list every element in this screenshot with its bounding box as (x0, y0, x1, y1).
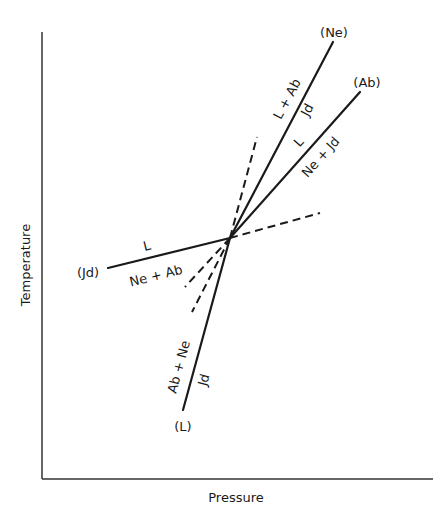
reaction-label-ne: (Ne) (320, 25, 348, 40)
y-axis-label: Temperature (18, 224, 33, 307)
assemblage-ab-side-b: Ne + Jd (299, 134, 343, 180)
metastable-extension-jd (230, 213, 320, 238)
reaction-line-jd (108, 238, 230, 268)
reaction-label-ab: (Ab) (353, 75, 380, 90)
assemblage-l-side-b: Jd (195, 372, 213, 389)
assemblage-ab-side-a: L (291, 134, 308, 150)
assemblage-ne-side-a: L + Ab (270, 76, 304, 121)
reaction-label-jd: (Jd) (77, 265, 99, 280)
x-axis-label: Pressure (208, 490, 264, 505)
phase-diagram: Pressure Temperature (Ne) (Ab) (Jd) (L) … (0, 0, 445, 516)
assemblage-jd-side-b: Ne + Ab (128, 262, 184, 290)
metastable-extension-ne (192, 238, 230, 312)
assemblage-jd-side-a: L (142, 237, 153, 253)
reaction-label-l: (L) (174, 419, 191, 434)
